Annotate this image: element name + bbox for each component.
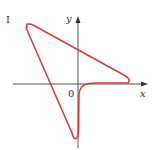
panel-label: I	[6, 14, 10, 25]
y-axis-arrow-icon	[76, 16, 81, 23]
origin-label: 0	[68, 88, 74, 99]
x-axis-label: x	[140, 88, 146, 99]
x-axis-arrow-icon	[141, 82, 148, 87]
y-axis-label: y	[65, 13, 72, 24]
parametric-curve-chart: I y x 0	[0, 0, 157, 150]
